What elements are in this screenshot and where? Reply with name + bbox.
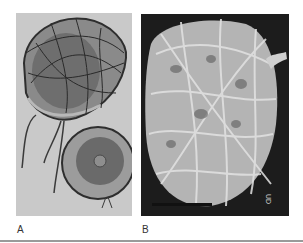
cell-drawing-illustration xyxy=(16,13,132,216)
panel-label-a: A xyxy=(17,224,24,235)
panel-b-micrograph: UD xyxy=(141,14,289,216)
divider-rule xyxy=(0,240,303,242)
sem-micrograph-image: UD xyxy=(141,14,289,216)
scale-bar xyxy=(152,203,212,206)
panel-label-b: B xyxy=(142,224,149,235)
corner-text: UD xyxy=(265,194,272,204)
panel-a-drawing xyxy=(16,13,132,216)
